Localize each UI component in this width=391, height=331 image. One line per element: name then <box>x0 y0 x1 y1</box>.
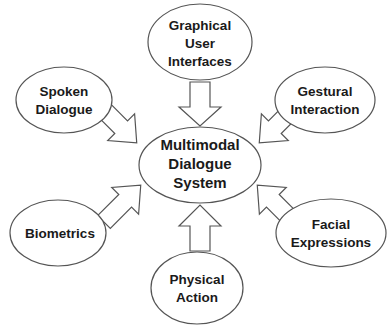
spoken-dialogue-label-line-2: Dialogue <box>35 102 92 117</box>
gestural-interaction-label-line-2: Interaction <box>290 102 359 117</box>
node-graphical-user-interfaces: Graphical User Interfaces <box>148 4 252 80</box>
arrow-gui-to-center <box>179 82 221 126</box>
gui-label-line-3: Interfaces <box>168 54 232 69</box>
gui-label-line-2: User <box>185 36 216 51</box>
gui-label-line-1: Graphical <box>169 18 231 33</box>
spoken-dialogue-label-line-1: Spoken <box>40 84 89 99</box>
node-facial-expressions: Facial Expressions <box>276 199 386 267</box>
physical-action-label-line-1: Physical <box>170 272 225 287</box>
node-physical-action: Physical Action <box>151 252 243 324</box>
node-biometrics: Biometrics <box>10 200 106 266</box>
biometrics-label: Biometrics <box>25 226 95 241</box>
node-gestural-interaction: Gestural Interaction <box>275 67 375 133</box>
center-label-line-3: System <box>173 174 226 191</box>
multimodal-dialogue-diagram: Multimodal Dialogue System Graphical Use… <box>0 0 391 331</box>
node-spoken-dialogue: Spoken Dialogue <box>16 67 112 133</box>
facial-expressions-label-line-2: Expressions <box>291 235 371 250</box>
physical-action-label-line-2: Action <box>176 290 218 305</box>
center-label-line-1: Multimodal <box>160 136 239 153</box>
facial-expressions-label-line-1: Facial <box>312 217 350 232</box>
arrow-physical-action-to-center <box>179 205 221 251</box>
gestural-interaction-label-line-1: Gestural <box>298 84 353 99</box>
center-label-line-2: Dialogue <box>168 155 231 172</box>
node-multimodal-dialogue-system: Multimodal Dialogue System <box>139 127 261 203</box>
